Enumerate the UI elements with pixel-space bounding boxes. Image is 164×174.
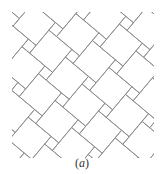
large-square-tile [150,105,164,147]
large-square-tile [52,128,94,159]
small-square-tile [55,93,69,107]
small-square-tile [92,33,106,47]
small-square-tile [82,76,96,90]
large-square-tile [0,0,39,18]
small-square-tile [115,130,129,144]
large-square-tile [144,34,164,76]
small-square-tile [146,0,160,14]
small-square-tile [159,141,164,155]
large-square-tile [36,101,78,143]
large-square-tile [100,24,142,66]
large-square-tile [90,67,132,109]
large-square-tile [73,41,115,83]
large-square-tile [23,0,65,2]
large-square-tile [0,90,35,132]
small-square-tile [142,114,156,128]
large-square-tile [0,134,24,158]
large-square-tile [127,7,164,49]
large-square-tile [30,30,72,72]
small-square-tile [163,27,164,41]
large-square-tile [117,51,159,93]
large-square-tile [137,0,164,6]
large-square-tile [46,57,88,99]
small-square-tile [32,0,46,10]
small-square-tile [1,126,15,140]
small-square-tile [152,70,164,84]
large-square-tile [96,138,138,158]
small-square-tile [76,6,90,20]
small-square-tile [72,120,86,134]
square-tiles [0,0,164,158]
large-square-tile [106,94,148,136]
large-square-tile [110,0,152,23]
figure-caption: (a) [0,156,164,171]
large-square-tile [79,111,121,153]
large-square-tile [0,0,12,35]
small-square-tile [65,49,79,63]
caption-close-paren: ) [85,156,89,170]
small-square-tile [39,66,53,80]
small-square-tile [28,109,42,123]
small-square-tile [45,136,59,150]
small-square-tile [12,83,26,97]
large-square-tile [57,14,99,56]
small-square-tile [103,0,117,3]
large-square-tile [13,3,55,45]
small-square-tile [119,16,133,30]
large-square-tile [0,63,18,105]
large-square-tile [19,74,61,116]
large-square-tile [9,117,51,158]
tiling-diagram [0,0,164,158]
small-square-tile [109,60,123,74]
large-square-tile [123,121,164,158]
small-square-tile [22,39,36,53]
large-square-tile [0,36,1,78]
small-square-tile [5,12,19,26]
large-square-tile [3,47,45,89]
large-square-tile [0,107,8,149]
large-square-tile [160,61,164,103]
large-square-tile [67,0,109,12]
large-square-tile [63,84,105,126]
small-square-tile [126,87,140,101]
small-square-tile [136,43,150,57]
large-square-tile [84,0,126,39]
small-square-tile [49,22,63,36]
small-square-tile [99,103,113,117]
small-square-tile [0,56,9,70]
large-square-tile [154,0,164,33]
